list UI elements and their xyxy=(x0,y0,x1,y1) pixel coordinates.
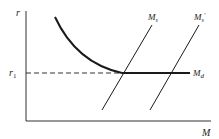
ms-prime-label: Ms′ xyxy=(193,11,206,23)
y-axis-label: r xyxy=(16,7,20,18)
ms-line xyxy=(102,25,152,110)
ms-prime-line xyxy=(150,25,199,110)
x-axis-label: M xyxy=(201,127,211,138)
md-curve xyxy=(55,17,122,73)
r1-label: r1 xyxy=(9,67,17,80)
md-label: Md xyxy=(192,68,205,80)
ms-label: Ms xyxy=(147,12,159,23)
money-market-diagram: r M r1 Md Ms Ms′ xyxy=(0,0,219,139)
